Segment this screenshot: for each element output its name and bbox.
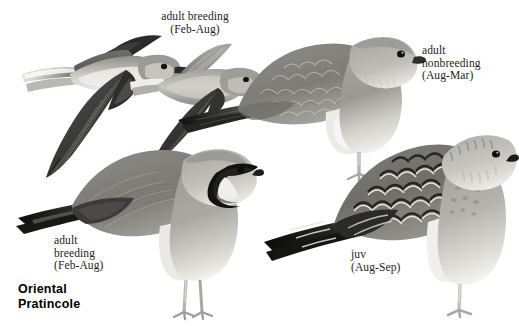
bird-standing-juvenile (262, 96, 519, 326)
foot-near (174, 312, 194, 319)
foot (448, 310, 471, 317)
eye (492, 150, 500, 157)
leg-far (200, 280, 202, 312)
eye (397, 50, 405, 57)
foot-far (193, 312, 212, 319)
species-name-line2: Pratincole (18, 297, 80, 312)
eye-glint (496, 152, 498, 154)
head (442, 135, 517, 190)
label-adult-breeding-standing: adult breeding (Feb-Aug) (54, 234, 103, 272)
species-name-line1: Oriental (18, 282, 67, 297)
eye-glint (401, 52, 403, 54)
label-flying-adult-breeding: adult breeding (Feb-Aug) (143, 10, 247, 35)
label-juvenile: juv (Aug-Sep) (351, 248, 400, 273)
eye (237, 167, 244, 173)
label-adult-nonbreeding: adult nonbreeding (Aug-Mar) (422, 44, 481, 82)
field-guide-plate: adult breeding (Feb-Aug) adult nonbreedi… (0, 0, 519, 326)
